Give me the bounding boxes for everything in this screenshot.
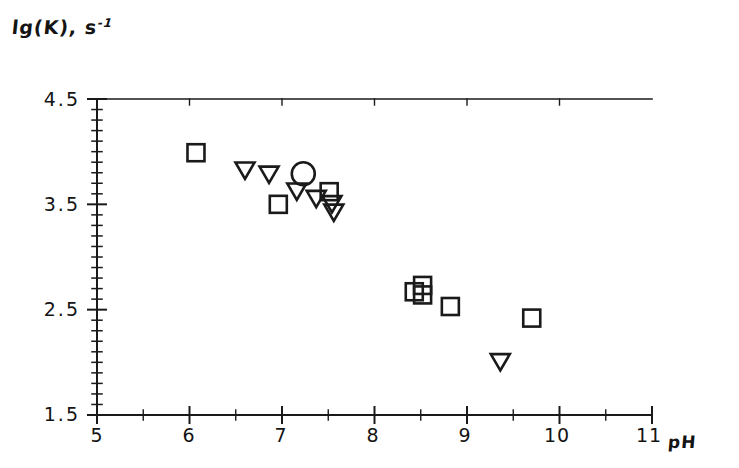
axis-lines	[88, 99, 652, 423]
marker-triangle-down	[491, 354, 510, 370]
marker-square	[523, 310, 540, 327]
data-markers	[187, 144, 540, 370]
marker-square	[187, 144, 204, 161]
marker-triangle-down	[236, 162, 255, 178]
marker-square	[270, 196, 287, 213]
plot-canvas	[0, 0, 739, 468]
marker-circle	[292, 162, 315, 185]
scatter-plot-figure: lg(K), s-1 pH 4.5 3.5 2.5 1.5 5 6 7 8 9 …	[0, 0, 739, 468]
marker-triangle-down	[260, 167, 279, 183]
marker-square	[442, 298, 459, 315]
